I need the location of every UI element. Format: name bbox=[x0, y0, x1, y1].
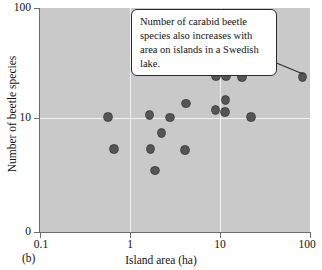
data-point bbox=[146, 111, 154, 119]
data-point bbox=[182, 100, 190, 108]
data-point bbox=[299, 73, 307, 81]
x-axis-title: Island area (ha) bbox=[0, 254, 322, 266]
data-point bbox=[221, 108, 229, 116]
panel-label: (b) bbox=[22, 252, 35, 264]
data-point bbox=[104, 113, 112, 121]
data-point bbox=[147, 145, 155, 153]
data-point bbox=[110, 145, 118, 153]
y-tick-label-0: 0 bbox=[25, 226, 31, 238]
annotation-callout: Number of carabid beetle species also in… bbox=[131, 9, 277, 76]
data-point bbox=[166, 114, 174, 122]
x-axis-line bbox=[39, 232, 311, 233]
y-axis-title: Number of beetle species bbox=[6, 34, 18, 194]
gridline-horizontal-10 bbox=[40, 118, 310, 119]
x-tick-label-0.1: 0.1 bbox=[34, 239, 48, 251]
x-tick-label-100: 100 bbox=[298, 239, 315, 251]
y-tick-label-100: 100 bbox=[14, 2, 31, 14]
y-axis-line bbox=[39, 8, 40, 233]
data-point bbox=[181, 146, 189, 154]
data-point bbox=[158, 129, 166, 137]
x-tick-label-10: 10 bbox=[214, 239, 226, 251]
data-point bbox=[222, 96, 230, 104]
data-point bbox=[151, 167, 159, 175]
y-tick-100 bbox=[34, 8, 40, 9]
data-point bbox=[247, 113, 255, 121]
data-point bbox=[212, 106, 220, 114]
x-tick-label-1: 1 bbox=[127, 239, 133, 251]
y-tick-label-10: 10 bbox=[20, 112, 32, 124]
scatter-plot-figure: 100 10 0 0.1 1 10 100 Island area (ha) N… bbox=[0, 0, 322, 270]
y-tick-10 bbox=[34, 118, 40, 119]
